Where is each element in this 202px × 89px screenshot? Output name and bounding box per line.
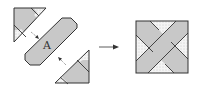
placement-arrow-top — [31, 32, 39, 39]
top-left-triangle-piece — [14, 8, 46, 42]
assembly-arrow — [99, 45, 119, 50]
placement-arrow-bottom — [58, 57, 66, 65]
center-band-piece: A — [25, 18, 77, 65]
piece-label: A — [42, 39, 52, 52]
bottom-right-triangle-piece — [55, 50, 89, 84]
quilt-block-diagram: A — [0, 0, 202, 89]
assembled-square — [136, 21, 188, 73]
